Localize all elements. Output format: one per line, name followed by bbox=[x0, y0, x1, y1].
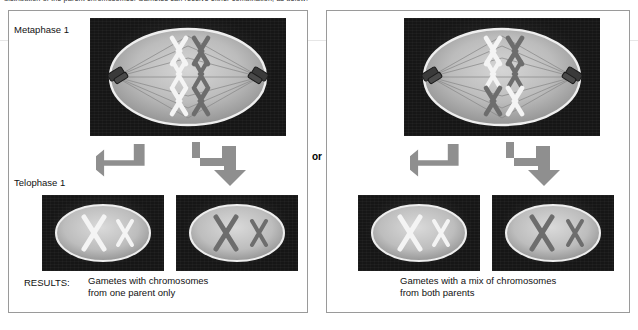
arrow-down-right-icon bbox=[192, 142, 246, 186]
results-caption-right: Gametes with a mix of chromosomes from b… bbox=[400, 275, 556, 299]
cell-membrane bbox=[372, 205, 466, 261]
results-caption-left: Gametes with chromosomes from one parent… bbox=[88, 275, 208, 299]
division-arrows-left bbox=[96, 136, 286, 194]
metaphase-left-illustration bbox=[90, 18, 286, 136]
stage-label-telophase: Telophase 1 bbox=[14, 177, 65, 188]
division-arrows-right bbox=[410, 136, 600, 194]
gamete-left-a bbox=[42, 195, 164, 271]
gamete-right-b bbox=[492, 195, 614, 271]
arrow-down-right-icon bbox=[506, 142, 560, 186]
gamete-left-a-illustration bbox=[42, 195, 164, 271]
gamete-right-a bbox=[358, 195, 480, 271]
meiosis-independent-assortment-figure: distribution of the parent chromosomes. … bbox=[0, 0, 638, 330]
metaphase-1-cell-left bbox=[90, 18, 286, 136]
cell-membrane bbox=[190, 205, 284, 261]
gamete-left-b-illustration bbox=[176, 195, 298, 271]
cell-membrane bbox=[56, 205, 150, 261]
gamete-right-a-illustration bbox=[358, 195, 480, 271]
stage-label-metaphase: Metaphase 1 bbox=[14, 24, 69, 35]
arrow-down-left-icon bbox=[96, 144, 145, 176]
figure-top-caption: distribution of the parent chromosomes. … bbox=[4, 0, 634, 4]
arrow-down-left-icon bbox=[410, 144, 459, 176]
or-separator: or bbox=[308, 151, 326, 162]
gamete-right-b-illustration bbox=[492, 195, 614, 271]
metaphase-right-illustration bbox=[404, 18, 600, 136]
stage-label-results: RESULTS: bbox=[24, 277, 70, 288]
gamete-left-b bbox=[176, 195, 298, 271]
metaphase-1-cell-right bbox=[404, 18, 600, 136]
cell-membrane bbox=[506, 205, 600, 261]
